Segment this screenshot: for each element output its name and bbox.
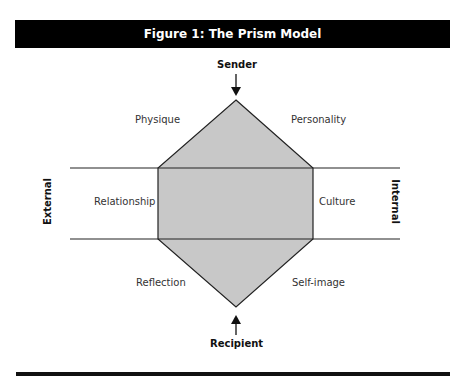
facet-relationship: Relationship xyxy=(94,196,155,207)
bottom-rule xyxy=(16,372,450,376)
sender-label: Sender xyxy=(217,59,257,70)
recipient-arrow-icon xyxy=(231,315,241,324)
sender-arrow-icon xyxy=(231,87,241,96)
facet-self-image: Self-image xyxy=(292,277,345,288)
prism-diagram xyxy=(0,0,474,377)
facet-culture: Culture xyxy=(319,196,355,207)
recipient-label: Recipient xyxy=(210,338,263,349)
facet-reflection: Reflection xyxy=(136,277,186,288)
internal-axis-label: Internal xyxy=(390,179,401,224)
facet-personality: Personality xyxy=(291,114,346,125)
facet-physique: Physique xyxy=(135,114,180,125)
prism-shape xyxy=(158,100,313,307)
external-axis-label: External xyxy=(42,178,53,225)
